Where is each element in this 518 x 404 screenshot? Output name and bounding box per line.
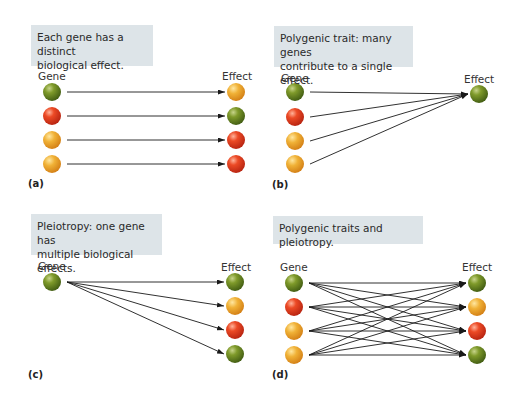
gene-label: Gene	[38, 70, 66, 82]
gene-effect-diagram: Each gene has a distinct biological effe…	[0, 0, 518, 404]
caption-box-c: Pleiotropy: one gene has multiple biolog…	[31, 214, 162, 255]
effect-label: Effect	[464, 73, 494, 85]
gene-ball-orange-icon	[286, 155, 304, 173]
effect-ball-green-icon	[227, 107, 245, 125]
gene-ball-orange-icon	[43, 155, 61, 173]
effect-ball-red-icon	[227, 131, 245, 149]
arrow-gene-4-to-effect-1	[310, 94, 468, 164]
gene-ball-orange-icon	[285, 322, 303, 340]
effect-ball-orange-icon	[227, 83, 245, 101]
gene-ball-red-icon	[43, 107, 61, 125]
gene-ball-green-icon	[43, 83, 61, 101]
caption-line: Pleiotropy: one gene has	[37, 219, 156, 247]
effect-ball-orange-icon	[468, 298, 486, 316]
effect-ball-red-icon	[227, 155, 245, 173]
caption-line: Polygenic trait: many genes	[280, 31, 407, 59]
gene-ball-red-icon	[285, 298, 303, 316]
gene-ball-orange-icon	[286, 132, 304, 150]
gene-label: Gene	[280, 261, 308, 273]
gene-label: Gene	[281, 72, 309, 84]
gene-ball-orange-icon	[43, 131, 61, 149]
effect-label: Effect	[462, 261, 492, 273]
gene-label: Gene	[38, 260, 66, 272]
arrow-gene-1-to-effect-1	[310, 92, 468, 94]
effect-ball-green-icon	[468, 274, 486, 292]
gene-ball-green-icon	[43, 273, 61, 291]
arrow-gene-1-to-effect-3	[67, 282, 224, 330]
effect-label: Effect	[222, 70, 252, 82]
effect-ball-green-icon	[470, 85, 488, 103]
arrow-gene-1-to-effect-2	[67, 282, 224, 306]
panel-letter: (d)	[272, 369, 288, 380]
effect-ball-green-icon	[468, 346, 486, 364]
effect-ball-red-icon	[226, 321, 244, 339]
panel-letter: (c)	[28, 369, 43, 380]
effect-ball-red-icon	[468, 322, 486, 340]
gene-ball-red-icon	[286, 108, 304, 126]
caption-line: Each gene has a distinct	[37, 30, 147, 58]
effect-ball-green-icon	[226, 273, 244, 291]
arrow-gene-3-to-effect-1	[310, 94, 468, 141]
panel-letter: (b)	[272, 179, 288, 190]
caption-box-b: Polygenic trait: many genes contribute t…	[274, 26, 413, 67]
caption-box-a: Each gene has a distinct biological effe…	[31, 25, 153, 66]
caption-box-d: Polygenic traits and pleiotropy.	[273, 216, 423, 244]
gene-ball-orange-icon	[285, 346, 303, 364]
effect-ball-green-icon	[226, 345, 244, 363]
effect-ball-orange-icon	[226, 297, 244, 315]
arrow-gene-2-to-effect-1	[310, 94, 468, 117]
arrow-gene-1-to-effect-4	[67, 282, 224, 354]
panel-letter: (a)	[28, 178, 44, 189]
gene-ball-green-icon	[285, 274, 303, 292]
caption-line: Polygenic traits and pleiotropy.	[279, 221, 417, 249]
effect-label: Effect	[221, 261, 251, 273]
